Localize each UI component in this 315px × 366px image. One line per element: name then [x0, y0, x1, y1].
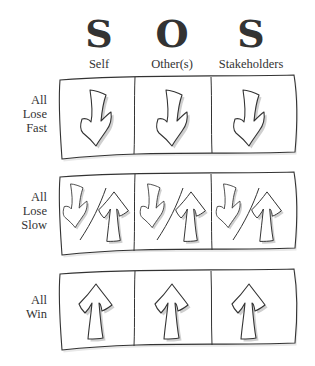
board-all-lose-fast — [59, 75, 298, 162]
sos-diagram-boards — [0, 0, 315, 366]
board-all-win — [59, 269, 298, 353]
board-all-lose-slow — [59, 172, 298, 258]
